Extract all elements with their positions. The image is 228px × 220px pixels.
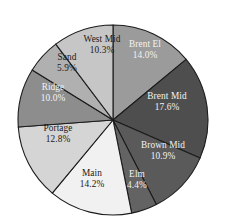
pie-chart-canvas xyxy=(0,0,228,220)
pie-chart: Brent El14.0%Brent Mid17.6%Brown Mid10.9… xyxy=(0,0,228,220)
pie-slice-group xyxy=(18,25,208,215)
